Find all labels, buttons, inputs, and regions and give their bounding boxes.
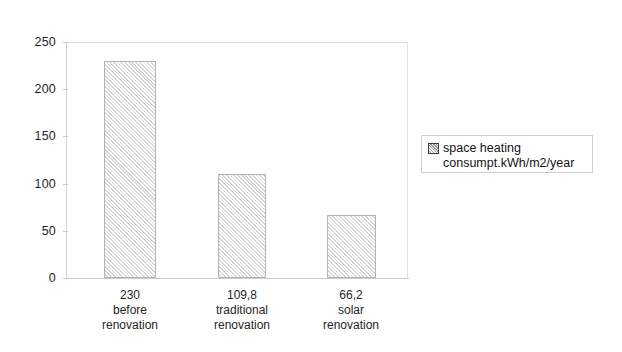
legend-item-space-heating: space heating consumpt.kWh/m2/year <box>428 141 574 171</box>
x-category-line1-2: solar <box>281 303 421 318</box>
y-axis <box>66 42 67 279</box>
y-tick-label-200: 200 <box>10 83 56 96</box>
legend-swatch-icon <box>428 143 439 154</box>
x-axis <box>66 278 409 279</box>
x-category-value-2: 66,2 <box>281 288 421 303</box>
y-tick-label-50: 50 <box>10 225 56 238</box>
legend-label-line2: consumpt.kWh/m2/year <box>443 156 574 171</box>
y-tick-label-0: 0 <box>10 272 56 285</box>
x-category-line2-2: renovation <box>281 318 421 333</box>
y-tick-label-150: 150 <box>10 130 56 143</box>
y-tick-label-250: 250 <box>10 36 56 49</box>
bar-before-renovation <box>104 61 156 278</box>
bar-chart: 250 200 150 100 50 0 230 before renovati… <box>0 0 622 352</box>
bar-solar-renovation <box>327 215 376 278</box>
x-category-label-2: 66,2 solar renovation <box>281 288 421 333</box>
legend-label: space heating consumpt.kWh/m2/year <box>443 141 574 171</box>
legend-label-line1: space heating <box>443 141 574 156</box>
legend: space heating consumpt.kWh/m2/year <box>421 135 593 173</box>
bar-traditional-renovation <box>218 174 266 278</box>
y-tick-label-100: 100 <box>10 178 56 191</box>
